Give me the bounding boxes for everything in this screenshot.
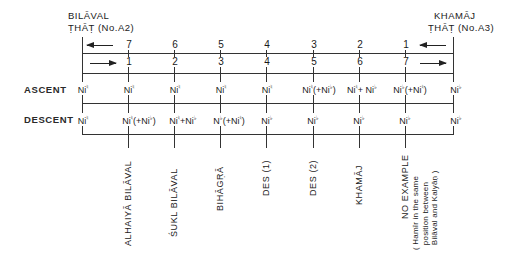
raga-label-no-example: NO EXAMPLE (400, 154, 410, 219)
bottom-number: 4 (257, 57, 277, 67)
descent-note: N♭(+Ni♮) (213, 113, 244, 126)
top-number: 5 (211, 40, 231, 50)
hamir-note: ( Hamīr in the same position between Bil… (411, 170, 440, 250)
arrow-left-icon (420, 45, 446, 46)
arrow-right-icon (420, 63, 446, 64)
ascent-note: Ni♮+ Ni♭ (347, 82, 377, 95)
top-number: 2 (350, 40, 370, 50)
right-that-label: KHAMĀJ ṬHĀṬ (No.A3) (428, 10, 494, 34)
arrow-right-icon (90, 63, 116, 64)
ascent-note: Ni♮ (78, 82, 89, 95)
ascent-note: Ni♮ (262, 82, 273, 95)
descent-note: Ni♮+Ni♭ (169, 113, 196, 126)
arrow-left-icon (87, 45, 113, 46)
bottom-scale-line (82, 73, 454, 74)
raga-label-des-2: DES (2) (308, 160, 318, 196)
bottom-number: 2 (165, 57, 185, 67)
descent-note: Ni♭ (353, 113, 364, 126)
descent-note: Ni♭ (450, 113, 461, 126)
raga-label-bihagra: BIHĀGṚĀ (215, 166, 225, 211)
raga-label-alhaiya-bilaval: ALHAIYĀ BILĀVAL (123, 161, 133, 246)
ascent-note: Ni♮ (170, 82, 181, 95)
ascent-label: ASCENT (24, 84, 67, 95)
descent-note: Ni♭ (261, 113, 272, 126)
left-that-label: BILĀVAL ṬHĀṬ (No.A2) (68, 10, 134, 34)
descent-note: Ni♮ (78, 113, 89, 126)
top-number: 6 (165, 40, 185, 50)
left-that-name: BILĀVAL (68, 10, 134, 22)
bottom-number: 7 (396, 57, 416, 67)
ascent-note: Ni♮ (124, 82, 135, 95)
top-number: 3 (304, 40, 324, 50)
descent-note: Ni♭ (307, 113, 318, 126)
raga-label-khamaj: KHAMĀJ (354, 165, 364, 205)
top-scale-line (82, 53, 454, 54)
left-that-number: ṬHĀṬ (No.A2) (68, 22, 134, 34)
bottom-number: 3 (211, 57, 231, 67)
ascent-note: Ni♭(+Ni♮) (393, 82, 426, 95)
descent-label: DESCENT (24, 114, 74, 125)
ascent-line (82, 103, 454, 104)
right-that-name: KHAMĀJ (428, 10, 494, 22)
raga-label-des-1: DES (1) (261, 160, 271, 196)
descent-line (82, 134, 454, 135)
ascent-note: Ni♮ (216, 82, 227, 95)
descent-note: Ni♮(+Ni♭) (122, 113, 155, 126)
top-number: 7 (119, 40, 139, 50)
ascent-note: Ni♭ (450, 82, 461, 95)
bottom-number: 6 (350, 57, 370, 67)
top-number: 1 (396, 40, 416, 50)
bottom-number: 1 (119, 57, 139, 67)
bottom-number: 5 (304, 57, 324, 67)
ascent-note: Ni♮(+Ni♭) (302, 82, 335, 95)
right-that-number: ṬHĀṬ (No.A3) (428, 22, 494, 34)
descent-note: Ni♭ (399, 113, 410, 126)
raga-label-shukl-bilaval: ŚUKL BILĀVAL (169, 168, 179, 237)
top-number: 4 (257, 40, 277, 50)
